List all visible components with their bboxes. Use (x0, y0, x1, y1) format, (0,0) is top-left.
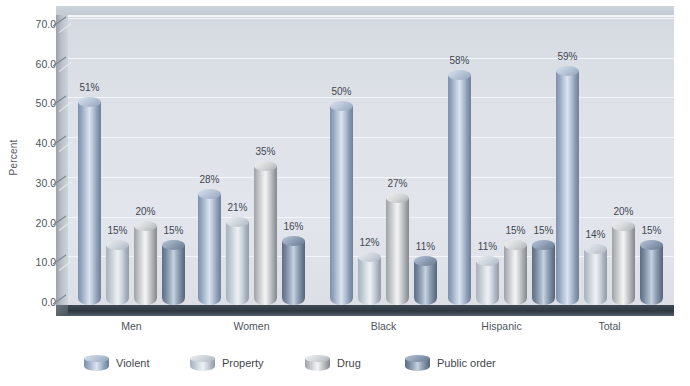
bar-body (414, 261, 437, 305)
bar-chart: Percent 0.010.020.030.040.050.060.070.0 … (0, 0, 690, 386)
bar-top-ellipse (612, 221, 635, 231)
x-axis-category-label: Total (598, 320, 620, 332)
legend-label: Drug (337, 357, 361, 369)
legend-item[interactable]: Public order (405, 350, 496, 376)
bar-top-ellipse (254, 161, 277, 171)
bar (162, 245, 185, 305)
legend-item[interactable]: Property (190, 350, 264, 376)
bar-value-label: 27% (387, 178, 407, 189)
bar-value-label: 21% (227, 202, 247, 213)
bar (612, 226, 635, 305)
bar-top-ellipse (134, 221, 157, 231)
bar-value-label: 58% (449, 55, 469, 66)
bar-value-label: 15% (107, 225, 127, 236)
legend-swatch-cylinder-icon (305, 355, 330, 372)
bar-body (584, 249, 607, 305)
bar-top-ellipse (448, 70, 471, 80)
bar (504, 245, 527, 305)
bar-body (330, 106, 353, 305)
bar (556, 71, 579, 305)
bar-top-ellipse (386, 193, 409, 203)
bar-body (476, 261, 499, 305)
bar (282, 241, 305, 305)
legend-item[interactable]: Drug (305, 350, 361, 376)
bar-body (282, 241, 305, 305)
bar-body (386, 198, 409, 305)
bar-value-label: 15% (641, 225, 661, 236)
bar-top-ellipse (556, 66, 579, 76)
bar-value-label: 11% (416, 241, 435, 252)
bar-value-label: 16% (283, 221, 303, 232)
bar-value-label: 35% (255, 146, 275, 157)
bar (106, 245, 129, 305)
x-axis-category-label: Men (121, 320, 141, 332)
bar-body (226, 222, 249, 305)
bar (448, 75, 471, 305)
bar-value-label: 50% (331, 86, 351, 97)
bar-value-label: 59% (557, 51, 577, 62)
bar-body (612, 226, 635, 305)
bar-body (78, 102, 101, 305)
bar-value-label: 51% (79, 82, 99, 93)
bar-value-label: 20% (135, 206, 155, 217)
bar-body (640, 245, 663, 305)
bar (134, 226, 157, 305)
bar (226, 222, 249, 305)
bar-value-label: 11% (478, 241, 497, 252)
legend-label: Public order (437, 357, 496, 369)
bar-body (556, 71, 579, 305)
legend-swatch-cylinder-icon (84, 355, 109, 372)
bar-body (532, 245, 555, 305)
bar-body (134, 226, 157, 305)
bar-body (254, 166, 277, 305)
x-axis-category-label: Women (234, 320, 270, 332)
bar-value-label: 20% (613, 206, 633, 217)
bar (532, 245, 555, 305)
bar (198, 194, 221, 305)
chart-legend: ViolentPropertyDrugPublic order (0, 350, 690, 380)
legend-swatch-cylinder-icon (405, 355, 430, 372)
bar-value-label: 14% (585, 229, 605, 240)
legend-item[interactable]: Violent (84, 350, 149, 376)
bar-top-ellipse (198, 189, 221, 199)
bar (330, 106, 353, 305)
bar-body (106, 245, 129, 305)
bar (414, 261, 437, 305)
bar-body (504, 245, 527, 305)
bar (584, 249, 607, 305)
bar-body (448, 75, 471, 305)
legend-swatch-cylinder-icon (190, 355, 215, 372)
bar-body (162, 245, 185, 305)
bar-value-label: 12% (359, 237, 379, 248)
bar (358, 257, 381, 305)
bar-value-label: 15% (505, 225, 525, 236)
bar (254, 166, 277, 305)
x-axis-category-label: Hispanic (481, 320, 521, 332)
bar (640, 245, 663, 305)
bar (476, 261, 499, 305)
bar-body (198, 194, 221, 305)
bar-value-label: 15% (533, 225, 553, 236)
bar-value-label: 15% (163, 225, 183, 236)
legend-label: Violent (116, 357, 149, 369)
legend-label: Property (222, 357, 264, 369)
bars-layer: 51%15%20%15%28%21%35%16%50%12%27%11%58%1… (0, 0, 690, 386)
bar (386, 198, 409, 305)
bar-body (358, 257, 381, 305)
x-axis-category-label: Black (371, 320, 397, 332)
bar-value-label: 28% (199, 174, 219, 185)
bar-top-ellipse (226, 217, 249, 227)
bar (78, 102, 101, 305)
